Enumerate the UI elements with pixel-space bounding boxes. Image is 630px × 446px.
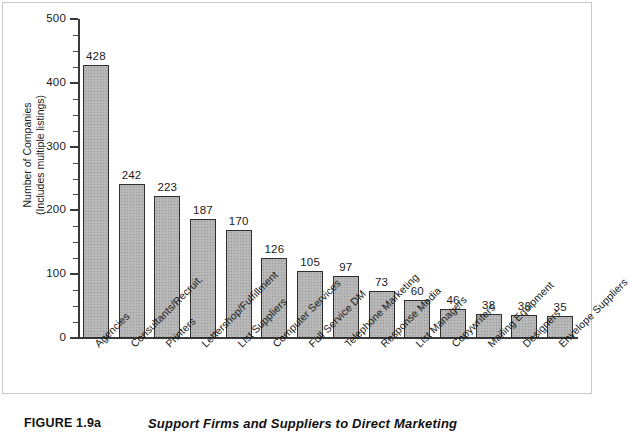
bar-group: 428 [83,19,109,338]
y-tick-label: 100 [32,267,66,279]
bar-group: 73 [369,19,395,338]
bar-value-label: 223 [144,181,190,193]
bar-group: 242 [119,19,145,338]
bar-value-label: 428 [73,50,119,62]
y-axis-tick-labels: 0100200300400500 [26,0,66,360]
bar-group: 223 [154,19,180,338]
bar-value-label: 35 [537,301,583,313]
y-tick-label: 0 [32,331,66,343]
y-tick-label: 500 [32,12,66,24]
bar[interactable] [83,65,109,338]
y-tick-label: 300 [32,140,66,152]
y-tick-major [70,337,78,339]
bar-value-label: 97 [323,261,369,273]
bar-value-label: 242 [109,169,155,181]
y-tick-major [70,18,78,20]
y-tick-label: 400 [32,76,66,88]
bar-value-label: 126 [251,243,297,255]
y-tick-major [70,146,78,148]
y-tick-major [70,82,78,84]
y-tick-major [70,273,78,275]
y-tick-major [70,209,78,211]
bar-group: 36 [511,19,537,338]
caption-figure-number: FIGURE 1.9a [24,416,101,430]
bar-group: 46 [440,19,466,338]
bar-group: 38 [476,19,502,338]
bar-group: 170 [226,19,252,338]
y-tick-label: 200 [32,203,66,215]
bar-value-label: 170 [216,215,262,227]
caption-title: Support Firms and Suppliers to Direct Ma… [148,416,457,431]
figure-caption: FIGURE 1.9a Support Firms and Suppliers … [0,412,598,446]
